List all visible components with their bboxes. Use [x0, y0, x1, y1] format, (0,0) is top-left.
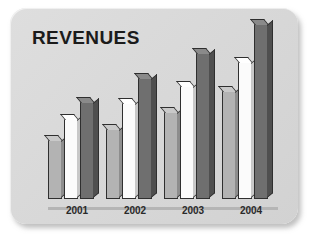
- bar-group-bars: [48, 9, 100, 199]
- bar-2004-series-1: [222, 91, 236, 199]
- x-axis-label-2001: 2001: [48, 205, 106, 216]
- x-axis-label-2003: 2003: [164, 205, 222, 216]
- bar-2001-series-1: [48, 140, 62, 199]
- bar-top-face: [60, 114, 79, 120]
- bar-2001-series-2: [64, 119, 78, 199]
- bar-side-face: [93, 98, 99, 198]
- bar-group-2004: 2004: [222, 8, 274, 216]
- x-axis-label-2004: 2004: [222, 205, 280, 216]
- bar-2004-series-3: [254, 24, 268, 199]
- bar-side-face: [209, 49, 215, 198]
- bar-group-bars: [222, 9, 274, 199]
- x-axis-label-2002: 2002: [106, 205, 164, 216]
- bar-group-2002: 2002: [106, 8, 158, 216]
- bar-chart-plot: 2001200220032004: [10, 8, 298, 224]
- bar-2003-series-3: [196, 53, 210, 199]
- bar-2003-series-2: [180, 86, 194, 199]
- bar-group-2001: 2001: [48, 8, 100, 216]
- bar-2003-series-1: [164, 112, 178, 199]
- bar-group-bars: [106, 9, 158, 199]
- bar-2002-series-3: [138, 78, 152, 199]
- bar-group-bars: [164, 9, 216, 199]
- bar-2002-series-1: [106, 129, 120, 199]
- bar-group-2003: 2003: [164, 8, 216, 216]
- bar-2002-series-2: [122, 103, 136, 199]
- bar-2004-series-2: [238, 62, 252, 199]
- bar-2001-series-3: [80, 102, 94, 199]
- bar-groups: 2001200220032004: [48, 8, 283, 224]
- chart-card-stage: REVENUES 2001200220032004: [0, 0, 311, 244]
- bar-side-face: [151, 74, 157, 198]
- bar-top-face: [192, 48, 211, 54]
- bar-top-face: [160, 107, 179, 113]
- bar-top-face: [218, 86, 237, 92]
- bar-side-face: [267, 20, 273, 198]
- bar-top-face: [102, 124, 121, 130]
